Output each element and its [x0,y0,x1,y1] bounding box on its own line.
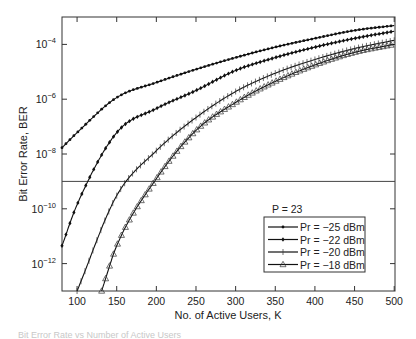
x-tick-label: 300 [227,295,245,307]
x-tick-label: 500 [385,295,403,307]
legend-label: Pr = −22 dBm [300,234,365,246]
y-tick-label: 10−4 [36,36,56,50]
x-tick-label: 400 [306,295,324,307]
legend-label: Pr = −20 dBm [300,246,365,258]
series-2 [60,30,394,248]
y-tick-label: 10−8 [36,146,56,160]
figure-caption: Bit Error Rate vs Number of Active Users [18,330,181,339]
x-tick-label: 350 [267,295,285,307]
y-axis-title: Bit Error Rate, BER [17,106,29,201]
x-tick-label: 250 [187,295,205,307]
series-1 [61,24,395,149]
y-tick-label: 10−6 [36,91,56,105]
legend: P = 23Pr = −25 dBmPr = −22 dBmPr = −20 d… [264,203,365,272]
x-axis-title: No. of Active Users, K [175,309,283,321]
x-tick-label: 200 [148,295,166,307]
x-tick-label: 150 [108,295,126,307]
y-tick-label: 10−10 [32,201,56,215]
legend-title: P = 23 [272,203,303,215]
ber-chart: 100150200250300350400450500 10−410−610−8… [0,0,416,339]
x-tick-label: 100 [68,295,86,307]
legend-label: Pr = −25 dBm [300,221,365,233]
legend-label: Pr = −18 dBm [300,259,365,271]
x-tick-label: 450 [346,295,364,307]
y-tick-label: 10−12 [32,256,56,270]
